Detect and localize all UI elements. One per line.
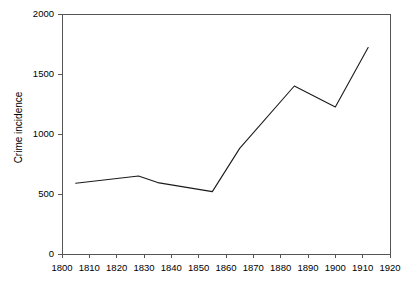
y-axis-ticks (58, 14, 62, 254)
y-tick-label: 1000 (20, 128, 54, 139)
x-tick-label: 1920 (373, 262, 407, 273)
plot-frame (62, 14, 390, 254)
data-series-group (76, 48, 368, 192)
y-tick-label: 2000 (20, 8, 54, 19)
chart-figure: Crime incidence 0500100015002000 1800181… (0, 0, 418, 288)
y-tick-label: 1500 (20, 68, 54, 79)
y-tick-label: 500 (20, 188, 54, 199)
y-tick-label: 0 (20, 248, 54, 259)
line-chart-plot-area (0, 0, 418, 288)
x-axis-ticks (62, 254, 390, 258)
